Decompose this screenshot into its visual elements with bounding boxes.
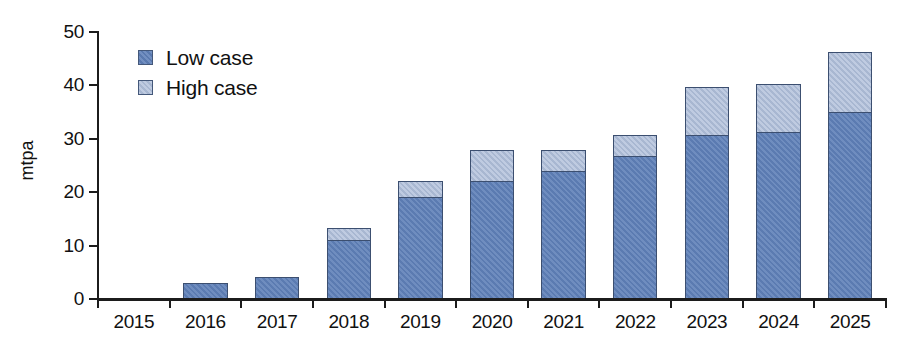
x-tick-label: 2021 [528,311,600,333]
x-tick [97,299,99,308]
x-tick-label: 2023 [671,311,743,333]
x-tick [527,299,529,308]
bar-segment-high-case [756,84,800,133]
legend-item-high-case: High case [138,72,258,102]
bar-segment-low-case [685,135,729,299]
x-tick-label: 2024 [743,311,815,333]
bar-segment-low-case [398,197,442,299]
x-tick [169,299,171,308]
x-tick [598,299,600,308]
x-tick [384,299,386,308]
x-tick-label: 2016 [170,311,242,333]
x-tick [240,299,242,308]
legend: Low case High case [138,42,258,102]
x-tick [742,299,744,308]
x-tick [670,299,672,308]
x-tick [885,299,887,308]
bar-segment-low-case [613,156,657,299]
legend-label-high-case: High case [166,77,258,98]
bar-segment-low-case [541,171,585,299]
bar-segment-high-case [541,150,585,171]
bar-segment-high-case [613,135,657,156]
x-tick-label: 2025 [814,311,886,333]
x-tick-label: 2018 [313,311,385,333]
bar-segment-low-case [470,181,514,299]
legend-swatch-low-case-icon [138,50,153,65]
x-tick [312,299,314,308]
bar-segment-high-case [828,52,872,113]
bar-segment-low-case [327,240,371,299]
bar-segment-low-case [756,132,800,299]
bar-segment-high-case [470,150,514,182]
x-tick-label: 2020 [456,311,528,333]
bar-segment-low-case [255,277,299,299]
bar-segment-high-case [398,181,442,198]
legend-label-low-case: Low case [166,47,253,68]
legend-swatch-high-case-icon [138,80,153,95]
bar-segment-high-case [685,87,729,136]
x-tick [813,299,815,308]
x-tick-label: 2015 [98,311,170,333]
x-axis-line [97,298,887,301]
bar-chart: mtpa 01020304050 20152016201720182019202… [0,0,902,351]
x-tick [455,299,457,308]
x-tick-label: 2017 [241,311,313,333]
bar-segment-low-case [183,283,227,299]
bar-segment-low-case [828,112,872,299]
legend-item-low-case: Low case [138,42,258,72]
x-tick-label: 2019 [385,311,457,333]
x-tick-label: 2022 [599,311,671,333]
